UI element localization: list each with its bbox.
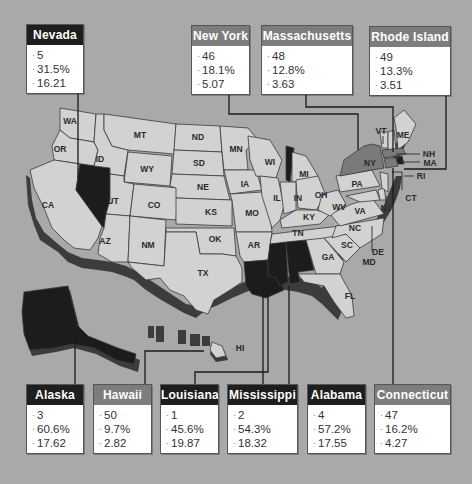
svg-text:IA: IA (241, 179, 250, 189)
svg-text:MO: MO (245, 208, 259, 218)
callout-title: Hawaii (94, 385, 151, 405)
svg-text:NE: NE (197, 182, 209, 192)
svg-text:WI: WI (265, 157, 275, 167)
callout-title: Alaska (27, 385, 83, 405)
bullet-icon: · (99, 424, 102, 434)
state-ak (22, 286, 140, 372)
callout-new-york: New York ·46 ·18.1% ·5.07 (191, 25, 250, 95)
bullet-icon: · (197, 79, 200, 89)
svg-text:NY: NY (364, 158, 376, 168)
svg-text:MT: MT (134, 130, 147, 140)
svg-text:OK: OK (209, 234, 223, 244)
callout-alabama: Alabama ·4 ·57.2% ·17.55 (307, 384, 366, 454)
svg-text:NC: NC (349, 223, 361, 233)
bullet-icon: · (32, 438, 35, 448)
bullet-icon: · (375, 80, 378, 90)
svg-text:OH: OH (315, 190, 328, 200)
svg-text:KY: KY (303, 212, 315, 222)
svg-text:OR: OR (54, 144, 67, 154)
svg-text:DE: DE (372, 247, 384, 257)
svg-text:WY: WY (140, 164, 154, 174)
svg-text:ME: ME (397, 130, 410, 140)
svg-text:WV: WV (332, 202, 346, 212)
callout-massachusetts: Massachusetts ·48 ·12.8% ·3.63 (261, 25, 353, 95)
svg-text:TX: TX (198, 268, 209, 278)
bullet-icon: · (233, 438, 236, 448)
svg-text:CO: CO (148, 200, 161, 210)
bullet-icon: · (313, 424, 316, 434)
svg-text:KS: KS (205, 207, 217, 217)
bullet-icon: · (32, 424, 35, 434)
bullet-icon: · (32, 78, 35, 88)
bullet-icon: · (313, 438, 316, 448)
bullet-icon: · (267, 65, 270, 75)
bullet-icon: · (233, 410, 236, 420)
bullet-icon: · (166, 410, 169, 420)
svg-text:MA: MA (423, 158, 436, 168)
svg-text:FL: FL (345, 291, 355, 301)
bullet-icon: · (380, 424, 383, 434)
callout-hawaii: Hawaii ·50 ·9.7% ·2.82 (93, 384, 152, 454)
callout-louisiana: Louisiana ·1 ·45.6% ·19.87 (160, 384, 219, 454)
state-nh (388, 130, 396, 150)
svg-text:TN: TN (292, 228, 303, 238)
state-hi (148, 326, 228, 362)
svg-text:MD: MD (362, 257, 375, 267)
value: ·16.21 (32, 76, 78, 90)
callout-title: New York (192, 26, 249, 46)
callout-title: Nevada (27, 25, 83, 45)
bullet-icon: · (375, 52, 378, 62)
svg-text:CT: CT (405, 193, 417, 203)
bullet-icon: · (313, 410, 316, 420)
callout-title: Connecticut (375, 385, 450, 405)
state-md (346, 190, 380, 202)
svg-text:HI: HI (236, 343, 245, 353)
svg-text:SC: SC (341, 240, 353, 250)
callout-nevada: Nevada ·5 ·31.5% ·16.21 (26, 24, 84, 94)
bullet-icon: · (197, 51, 200, 61)
bullet-icon: · (32, 50, 35, 60)
svg-text:NJ: NJ (381, 203, 392, 213)
svg-text:UT: UT (107, 196, 119, 206)
callout-rhode-island: Rhode Island ·49 ·13.3% ·3.51 (369, 26, 451, 96)
bullet-icon: · (197, 65, 200, 75)
callout-connecticut: Connecticut ·47 ·16.2% ·4.27 (374, 384, 451, 454)
callout-title: Rhode Island (370, 27, 450, 47)
svg-text:PA: PA (351, 179, 362, 189)
svg-text:IN: IN (294, 193, 303, 203)
bullet-icon: · (233, 424, 236, 434)
bullet-icon: · (166, 424, 169, 434)
callout-title: Massachusetts (262, 26, 352, 46)
svg-text:ID: ID (96, 154, 105, 164)
bullet-icon: · (99, 438, 102, 448)
bullet-icon: · (32, 410, 35, 420)
callout-title: Louisiana (161, 385, 218, 405)
svg-text:GA: GA (322, 252, 335, 262)
svg-text:MI: MI (299, 169, 308, 179)
svg-text:CA: CA (42, 200, 54, 210)
svg-text:WA: WA (63, 116, 77, 126)
svg-text:AZ: AZ (99, 236, 110, 246)
svg-text:VA: VA (354, 206, 365, 216)
svg-text:MN: MN (229, 144, 242, 154)
rank: ·5 (32, 48, 78, 62)
bullet-icon: · (267, 51, 270, 61)
bullet-icon: · (99, 410, 102, 420)
svg-text:AR: AR (248, 240, 260, 250)
bullet-icon: · (380, 438, 383, 448)
callout-title: Alabama (308, 385, 365, 405)
svg-text:VT: VT (376, 126, 388, 136)
callout-alaska: Alaska ·3 ·60.6% ·17.62 (26, 384, 84, 454)
callout-mississippi: Mississippi ·2 ·54.3% ·18.32 (227, 384, 298, 454)
state-ny (340, 144, 384, 176)
percent: ·31.5% (32, 62, 78, 76)
callout-title: Mississippi (228, 385, 297, 405)
svg-text:NM: NM (141, 240, 154, 250)
bullet-icon: · (166, 438, 169, 448)
bullet-icon: · (32, 64, 35, 74)
state-ct (384, 158, 398, 168)
bullet-icon: · (380, 410, 383, 420)
svg-text:ND: ND (192, 132, 204, 142)
bullet-icon: · (375, 66, 378, 76)
svg-text:SD: SD (193, 158, 205, 168)
